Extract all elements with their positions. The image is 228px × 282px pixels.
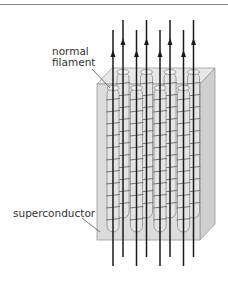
field-arrow-icon (144, 38, 149, 45)
normal-filament-label-line2: filament (52, 57, 95, 68)
field-arrow-icon (134, 50, 139, 57)
field-arrow-icon (111, 50, 116, 57)
normal-filament-label: normal filament (52, 46, 95, 68)
superconductor-label: superconductor (13, 208, 95, 219)
field-arrow-icon (181, 50, 186, 57)
field-arrow-icon (191, 38, 196, 45)
field-arrow-icon (121, 38, 126, 45)
field-arrow-icon (158, 50, 163, 57)
field-arrow-icon (168, 38, 173, 45)
superconductor-diagram (0, 0, 228, 282)
block-side-face (200, 68, 215, 240)
